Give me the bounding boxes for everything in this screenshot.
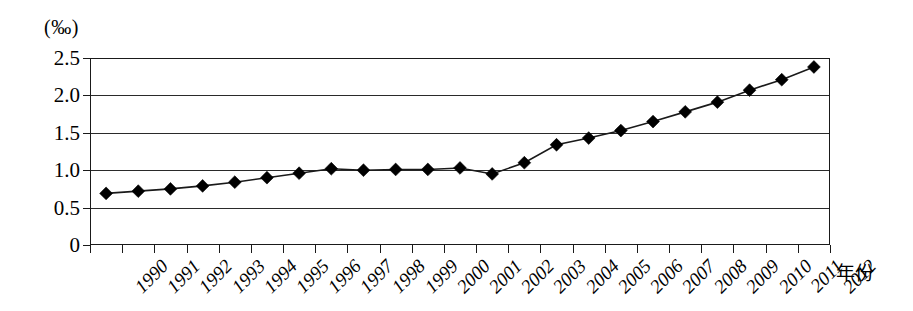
x-axis-tick-mark (380, 245, 381, 253)
y-axis-tick-label: 0 (70, 235, 81, 256)
y-axis-tick-label: 2.0 (54, 85, 80, 106)
x-axis-tick-mark (283, 245, 284, 253)
y-axis-tick-label: 1.0 (54, 160, 80, 181)
x-axis-tick-mark (187, 245, 188, 253)
x-axis-tick-mark (251, 245, 252, 253)
x-axis-tick-mark (122, 245, 123, 253)
x-axis-tick-label: 1997 (356, 256, 396, 296)
data-point-marker (196, 180, 209, 193)
data-point-marker (164, 183, 177, 196)
data-point-marker (711, 96, 724, 109)
x-axis-tick-label: 1990 (131, 256, 171, 296)
data-point-marker (486, 168, 499, 181)
y-axis-tick-label: 2.5 (54, 48, 80, 69)
x-axis-tick-label: 2002 (517, 256, 557, 296)
data-point-marker (228, 176, 241, 189)
data-point-marker (100, 187, 113, 200)
x-axis-tick-label: 2012 (839, 256, 879, 296)
x-axis-tick-mark (573, 245, 574, 253)
line-chart: (‰) 00.51.01.52.02.5 年份 1990199119921993… (0, 0, 913, 311)
x-axis-tick-mark (476, 245, 477, 253)
data-point-marker (518, 156, 531, 169)
data-point-marker (454, 162, 467, 175)
x-axis-tick-mark (701, 245, 702, 253)
x-axis-tick-label: 2008 (710, 256, 750, 296)
x-axis-tick-label: 1996 (324, 256, 364, 296)
data-point-marker (808, 61, 821, 74)
data-point-marker (743, 84, 756, 97)
x-axis-tick-mark (605, 245, 606, 253)
y-axis-tick-labels: 00.51.01.52.02.5 (0, 58, 80, 245)
x-axis-tick-label: 1995 (292, 256, 332, 296)
x-axis-tick-mark (508, 245, 509, 253)
x-axis-tick-label: 2004 (582, 256, 622, 296)
x-axis-tick-mark (733, 245, 734, 253)
x-axis-tick-mark (444, 245, 445, 253)
data-point-marker (325, 162, 338, 175)
y-axis-tick-label: 0.5 (54, 197, 80, 218)
x-axis-tick-label: 2000 (453, 256, 493, 296)
x-axis-tick-label: 2003 (549, 256, 589, 296)
x-axis-tick-mark (830, 245, 831, 253)
x-axis-tick-label: 1999 (421, 256, 461, 296)
x-axis-tick-mark (412, 245, 413, 253)
x-axis-tick-label: 2006 (646, 256, 686, 296)
x-axis-tick-mark (798, 245, 799, 253)
y-axis-unit-label: (‰) (44, 16, 79, 39)
x-axis-tick-label: 1992 (196, 256, 236, 296)
x-axis-tick-mark (90, 245, 91, 253)
series-markers (100, 61, 821, 200)
data-point-marker (550, 138, 563, 151)
plot-area (90, 58, 830, 245)
x-axis-tick-label: 2009 (743, 256, 783, 296)
x-axis-tick-mark (154, 245, 155, 253)
data-point-marker (389, 163, 402, 176)
x-axis-tick-mark (347, 245, 348, 253)
x-axis-tick-mark (637, 245, 638, 253)
y-axis-tick-label: 1.5 (54, 122, 80, 143)
x-axis-tick-marks (90, 245, 830, 255)
x-axis-tick-mark (766, 245, 767, 253)
data-point-marker (775, 73, 788, 86)
x-axis-tick-mark (669, 245, 670, 253)
data-point-marker (357, 164, 370, 177)
data-point-marker (582, 132, 595, 145)
data-point-marker (261, 171, 274, 184)
x-axis-tick-label: 2005 (614, 256, 654, 296)
x-axis-tick-label: 1993 (228, 256, 268, 296)
data-series (90, 58, 830, 245)
x-axis-tick-label: 1991 (163, 256, 203, 296)
x-axis-tick-label: 1998 (389, 256, 429, 296)
x-axis-tick-label: 2010 (775, 256, 815, 296)
x-axis-tick-label: 2001 (485, 256, 525, 296)
data-point-marker (421, 163, 434, 176)
x-axis-tick-mark (219, 245, 220, 253)
data-point-marker (132, 185, 145, 198)
data-point-marker (293, 167, 306, 180)
x-axis-tick-label: 2007 (678, 256, 718, 296)
data-point-marker (679, 105, 692, 118)
x-axis-title: 年份 (836, 264, 874, 283)
data-point-marker (614, 124, 627, 137)
x-axis-tick-mark (540, 245, 541, 253)
x-axis-tick-label: 1994 (260, 256, 300, 296)
x-axis-tick-mark (315, 245, 316, 253)
x-axis-tick-label: 2011 (806, 256, 845, 295)
data-point-marker (647, 115, 660, 128)
